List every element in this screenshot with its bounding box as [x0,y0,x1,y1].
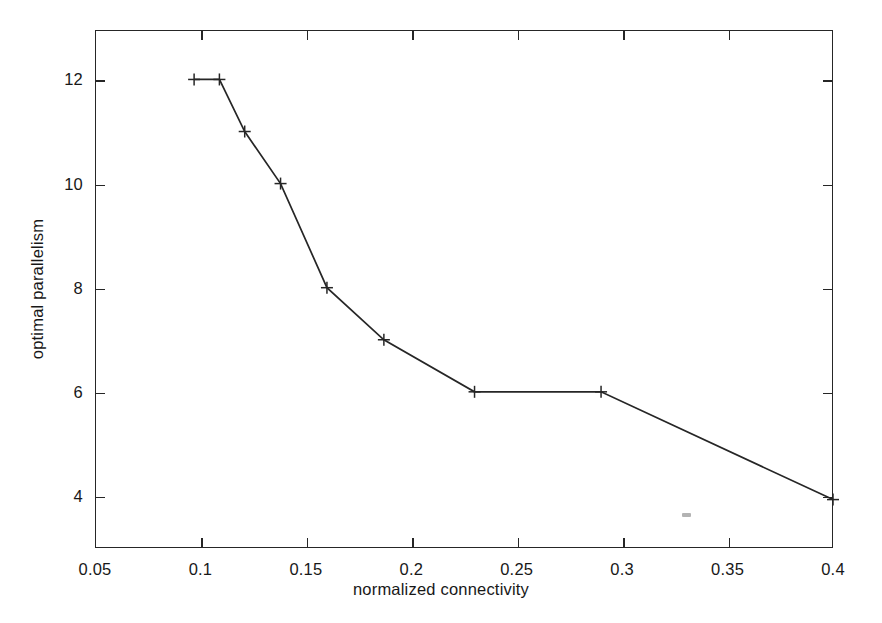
y-tick-label: 8 [27,278,83,297]
x-tick-mark [412,538,413,547]
y-tick-mark-right [823,393,832,394]
x-tick-mark [729,538,730,547]
x-tick-mark [518,538,519,547]
x-tick-label: 0.35 [711,560,744,579]
y-tick-label: 6 [27,382,83,401]
x-tick-mark-top [518,31,519,40]
x-tick-mark [307,538,308,547]
x-tick-mark [201,538,202,547]
y-tick-label: 10 [27,174,83,193]
y-tick-label: 12 [27,70,83,89]
x-tick-mark-top [729,31,730,40]
x-tick-label: 0.4 [821,560,845,579]
x-tick-label: 0.2 [400,560,424,579]
y-tick-mark [96,497,105,498]
y-tick-mark [96,185,105,186]
x-axis-title: normalized connectivity [0,580,882,599]
x-tick-label: 0.05 [79,560,112,579]
scan-artifact-speck [682,513,691,517]
x-tick-mark-top [307,31,308,40]
y-tick-label: 4 [27,486,83,505]
x-tick-mark [623,538,624,547]
y-tick-mark-right [823,497,832,498]
y-tick-mark-right [823,289,832,290]
figure-canvas: optimal parallelism 0.050.10.150.20.250.… [0,0,882,623]
x-tick-label: 0.1 [189,560,213,579]
x-tick-mark-top [412,31,413,40]
x-tick-label: 0.25 [500,560,533,579]
y-tick-mark-right [823,185,832,186]
y-tick-mark [96,80,105,81]
x-tick-mark-top [201,31,202,40]
x-tick-mark-top [623,31,624,40]
y-tick-mark-right [823,80,832,81]
y-tick-mark [96,393,105,394]
x-tick-label: 0.3 [610,560,634,579]
y-tick-mark [96,289,105,290]
plot-area [95,30,833,548]
x-tick-label: 0.15 [289,560,322,579]
